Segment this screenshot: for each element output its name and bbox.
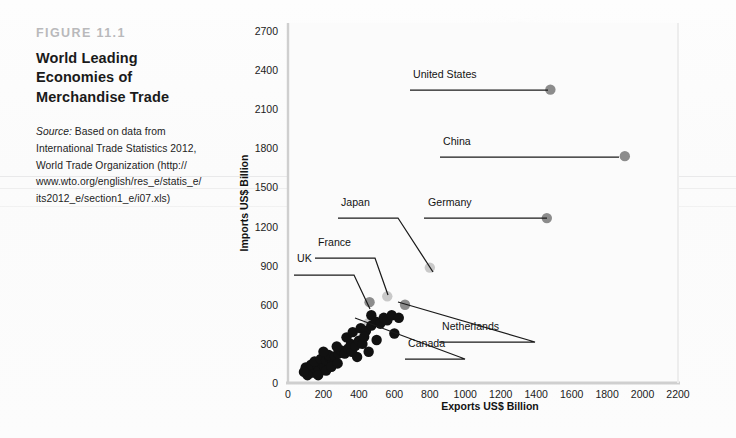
y-tick-labels: 0300600900120015001800210024002700 xyxy=(255,25,279,389)
x-tick-label: 600 xyxy=(386,388,404,400)
data-point xyxy=(332,341,342,351)
point-label: UK xyxy=(297,252,312,264)
data-point xyxy=(359,332,369,342)
highlighted-data-point xyxy=(620,151,630,161)
y-tick-label: 2400 xyxy=(255,64,279,76)
point-label: China xyxy=(443,135,471,147)
point-label: Germany xyxy=(428,196,472,208)
y-axis-title: Imports US$ Billion xyxy=(238,155,250,252)
y-tick-label: 1800 xyxy=(255,142,279,154)
x-tick-label: 800 xyxy=(421,388,439,400)
x-tick-label: 2000 xyxy=(631,388,655,400)
x-tick-label: 1400 xyxy=(525,388,549,400)
data-point xyxy=(318,347,328,357)
y-tick-label: 2700 xyxy=(255,25,279,37)
data-point xyxy=(363,347,373,357)
x-tick-label: 0 xyxy=(285,388,291,400)
y-tick-label: 0 xyxy=(272,377,278,389)
x-tick-label: 2200 xyxy=(666,388,690,400)
highlighted-data-point xyxy=(364,297,374,307)
y-tick-label: 600 xyxy=(260,299,278,311)
x-tick-label: 1200 xyxy=(489,388,513,400)
y-tick-label: 300 xyxy=(260,338,278,350)
y-tick-label: 2100 xyxy=(255,103,279,115)
x-tick-label: 200 xyxy=(315,388,333,400)
data-point xyxy=(352,352,362,362)
point-label: Canada xyxy=(408,337,445,349)
x-tick-label: 1800 xyxy=(595,388,619,400)
x-axis-title: Exports US$ Billion xyxy=(441,400,538,412)
y-tick-label: 900 xyxy=(260,260,278,272)
point-label: Netherlands xyxy=(442,320,499,332)
data-point xyxy=(394,313,404,323)
point-label: Japan xyxy=(341,196,370,208)
point-label: United States xyxy=(413,68,477,80)
data-point xyxy=(371,335,381,345)
scatter-chart: 0300600900120015001800210024002700 02004… xyxy=(0,0,736,438)
x-tick-label: 1600 xyxy=(560,388,584,400)
point-label: France xyxy=(318,236,351,248)
x-tick-label: 400 xyxy=(350,388,368,400)
data-point xyxy=(366,310,376,320)
x-tick-label: 1000 xyxy=(454,388,478,400)
data-point xyxy=(299,367,309,377)
data-point xyxy=(332,358,342,368)
x-tick-labels: 0200400600800100012001400160018002000220… xyxy=(285,388,690,400)
y-tick-label: 1500 xyxy=(255,181,279,193)
y-tick-label: 1200 xyxy=(255,221,279,233)
